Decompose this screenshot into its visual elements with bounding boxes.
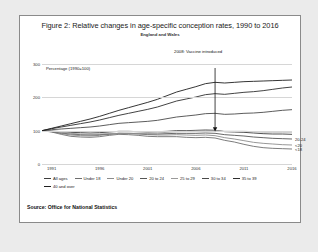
x-tick-label: 2006 <box>191 166 200 171</box>
x-tick-label: 1996 <box>95 166 104 171</box>
legend-item[interactable]: 25 to 29 <box>171 176 195 181</box>
annotation-arrow <box>42 64 292 164</box>
legend-item[interactable]: 30 to 34 <box>202 176 226 181</box>
x-tick-label: 2001 <box>143 166 152 171</box>
right-series-label: 20-24 <box>295 137 305 142</box>
figure-subtitle: England and Wales <box>20 32 300 37</box>
x-tick-label: 2016 <box>287 166 296 171</box>
y-tick-label: 300 <box>33 62 40 67</box>
legend-item[interactable]: Under 18 <box>75 176 101 181</box>
legend-swatch <box>44 178 51 180</box>
legend-swatch <box>44 186 51 188</box>
legend-swatch <box>140 178 147 180</box>
legend-swatch <box>75 178 82 180</box>
figure-title: Figure 2: Relative changes in age-specif… <box>20 21 300 30</box>
legend-swatch <box>202 178 209 180</box>
legend-label: All ages <box>53 176 68 181</box>
plot-area: 0100200300 199119962001200620112016 20-2… <box>42 64 292 164</box>
y-tick-label: 100 <box>33 128 40 133</box>
x-tick-label: 2011 <box>239 166 248 171</box>
chart-panel: Figure 2: Relative changes in age-specif… <box>19 15 301 223</box>
legend-item[interactable]: 20 to 24 <box>140 176 164 181</box>
y-tick-label: 0 <box>38 162 40 167</box>
annotation-label: 2008: Vaccine introduced <box>174 49 222 54</box>
legend-label: 35 to 39 <box>242 176 257 181</box>
legend-item[interactable]: 40 and over <box>44 184 75 189</box>
right-series-label: <18 <box>295 147 302 152</box>
legend-label: 25 to 29 <box>180 176 195 181</box>
y-tick-label: 200 <box>33 95 40 100</box>
legend-item[interactable]: All ages <box>44 176 68 181</box>
x-tick-label: 1991 <box>47 166 56 171</box>
legend-swatch <box>233 178 240 180</box>
legend-label: 30 to 34 <box>211 176 226 181</box>
legend-row-secondary: 40 and over <box>44 184 300 189</box>
legend-item[interactable]: Under 20 <box>107 176 133 181</box>
legend-swatch <box>107 178 114 180</box>
legend-label: Under 18 <box>84 176 101 181</box>
legend-swatch <box>171 178 178 180</box>
legend-item[interactable]: 35 to 39 <box>233 176 257 181</box>
source-note: Source: Office for National Statistics <box>27 204 117 210</box>
legend-row-primary: All agesUnder 18Under 2020 to 2425 to 29… <box>44 176 300 181</box>
legend-label: 20 to 24 <box>149 176 164 181</box>
legend-label: Under 20 <box>116 176 133 181</box>
legend-label: 40 and over <box>53 184 75 189</box>
gridline <box>42 164 292 165</box>
legend: All agesUnder 18Under 2020 to 2425 to 29… <box>44 176 300 189</box>
